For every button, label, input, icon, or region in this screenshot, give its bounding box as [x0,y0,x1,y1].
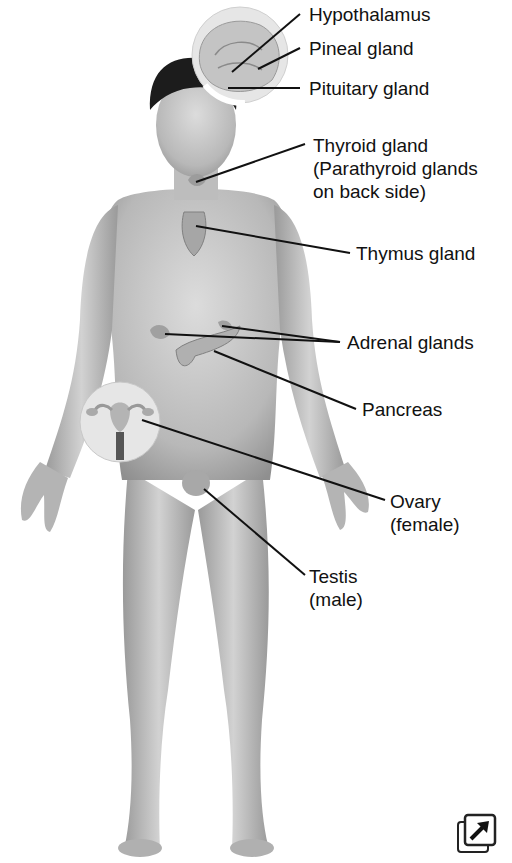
label-testis: Testis (male) [309,565,363,611]
label-adrenal-glands: Adrenal glands [347,331,474,354]
label-text: Adrenal glands [347,332,474,353]
label-thyroid-gland: Thyroid gland (Parathyroid glands on bac… [313,134,478,203]
label-text: Ovary [390,490,460,513]
expand-button[interactable] [455,812,499,856]
human-figure [0,0,512,863]
label-text: (male) [309,588,363,611]
endocrine-diagram: Hypothalamus Pineal gland Pituitary glan… [0,0,512,863]
label-ovary: Ovary (female) [390,490,460,536]
label-text: (Parathyroid glands [313,157,478,180]
label-text: (female) [390,513,460,536]
label-pituitary-gland: Pituitary gland [309,77,429,100]
label-text: Thymus gland [356,243,475,264]
label-pineal-gland: Pineal gland [309,37,414,60]
label-thymus-gland: Thymus gland [356,242,475,265]
label-hypothalamus: Hypothalamus [309,3,430,26]
label-text: Pituitary gland [309,78,429,99]
label-text: Hypothalamus [309,4,430,25]
label-text: on back side) [313,180,478,203]
label-text: Pancreas [362,399,442,420]
label-text: Testis [309,565,363,588]
label-pancreas: Pancreas [362,398,442,421]
label-text: Thyroid gland [313,134,478,157]
expand-icon [455,812,499,856]
label-text: Pineal gland [309,38,414,59]
